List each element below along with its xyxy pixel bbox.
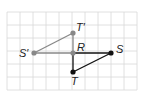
point-R <box>70 50 75 55</box>
point-T_prime <box>70 30 75 35</box>
point-S_prime <box>31 50 36 55</box>
point-S <box>108 50 113 55</box>
label-S: S <box>116 43 124 55</box>
segment-T-S <box>73 53 111 72</box>
label-T_prime: T′ <box>76 21 86 33</box>
label-S_prime: S′ <box>19 47 29 59</box>
reflection-diagram: S′T′RST <box>0 0 143 97</box>
point-T <box>70 69 75 74</box>
label-R: R <box>77 41 85 53</box>
segment-S_prime-T_prime <box>34 33 73 53</box>
